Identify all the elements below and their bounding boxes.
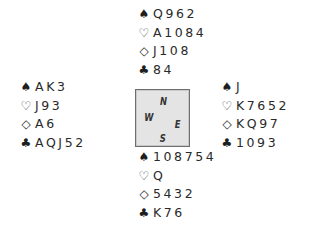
diamond-icon: ◇ — [19, 115, 33, 134]
east-hearts-cards: K7652 — [236, 97, 289, 116]
heart-icon: ♡ — [137, 24, 151, 43]
diamond-icon: ◇ — [220, 115, 234, 134]
diamond-icon: ◇ — [137, 42, 151, 61]
south-hearts-cards: Q — [153, 167, 165, 186]
north-spades-cards: Q962 — [153, 5, 197, 24]
compass-west-label: W — [144, 112, 153, 123]
club-icon: ♣ — [19, 134, 33, 153]
south-spades-cards: 108754 — [153, 148, 216, 167]
club-icon: ♣ — [137, 61, 151, 80]
north-hearts-cards: A1084 — [153, 24, 206, 43]
west-diamonds-cards: A6 — [35, 115, 57, 134]
south-clubs-cards: K76 — [153, 204, 185, 223]
club-icon: ♣ — [220, 134, 234, 153]
spade-icon: ♠ — [19, 78, 33, 97]
diamond-icon: ◇ — [137, 185, 151, 204]
north-diamonds-cards: J108 — [153, 42, 191, 61]
spade-icon: ♠ — [220, 78, 234, 97]
compass-south-label: S — [160, 133, 166, 144]
spade-icon: ♠ — [137, 148, 151, 167]
west-spades-cards: AK3 — [35, 78, 68, 97]
heart-icon: ♡ — [220, 97, 234, 116]
spade-icon: ♠ — [137, 5, 151, 24]
heart-icon: ♡ — [19, 97, 33, 116]
compass-box: N W E S — [135, 89, 190, 147]
north-clubs-cards: 84 — [153, 61, 174, 80]
west-clubs-cards: AQJ52 — [35, 134, 86, 153]
club-icon: ♣ — [137, 204, 151, 223]
heart-icon: ♡ — [137, 167, 151, 186]
south-diamonds-cards: 5432 — [153, 185, 195, 204]
compass-north-label: N — [160, 96, 167, 107]
east-spades-cards: J — [236, 78, 242, 97]
compass-east-label: E — [175, 119, 181, 130]
east-diamonds-cards: KQ97 — [236, 115, 280, 134]
east-clubs-cards: 1093 — [236, 134, 278, 153]
west-hearts-cards: J93 — [35, 97, 62, 116]
